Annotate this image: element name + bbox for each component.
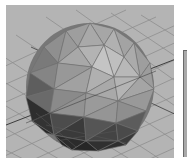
side-panel-partial <box>183 50 187 157</box>
sphere-mesh[interactable] <box>6 5 174 158</box>
3d-viewport[interactable] <box>6 5 174 158</box>
